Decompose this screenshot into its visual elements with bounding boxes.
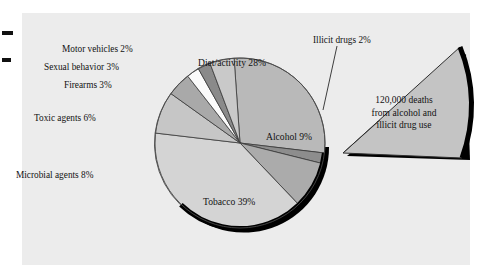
slice-label-toxic-agents: Toxic agents 6% — [34, 113, 96, 123]
slice-label-diet-activity: Diet/activity 28% — [198, 57, 266, 68]
slice-label-motor-vehicles: Motor vehicles 2% — [62, 44, 133, 54]
leader-line-illicit-drugs — [323, 46, 337, 110]
slice-label-sexual-behavior: Sexual behavior 3% — [44, 62, 119, 72]
slice-label-tobacco: Tobacco 39% — [203, 196, 255, 207]
exploded-wedge-annotation: 120,000 deaths from alcohol and illicit … — [355, 94, 453, 132]
slice-label-illicit-drugs: Illicit drugs 2% — [313, 35, 371, 45]
slice-label-microbial-agents: Microbial agents 8% — [16, 170, 93, 180]
annotation-line-3: illicit drug use — [355, 119, 453, 132]
annotation-line-1: 120,000 deaths — [355, 94, 453, 107]
slice-label-alcohol: Alcohol 9% — [266, 131, 312, 142]
slice-label-firearms: Firearms 3% — [64, 80, 112, 90]
chart-figure: Motor vehicles 2% Sexual behavior 3% Fir… — [0, 0, 478, 279]
pie-chart-graphic — [0, 0, 478, 279]
annotation-line-2: from alcohol and — [355, 107, 453, 120]
